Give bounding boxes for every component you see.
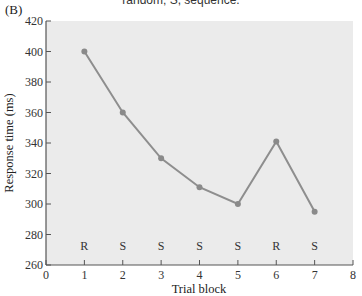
y-tick-label: 340 [25,136,43,150]
data-point [197,184,203,190]
condition-label: S [119,239,126,253]
x-tick-label: 5 [235,268,241,282]
y-tick-label: 360 [25,106,43,120]
data-point [158,155,164,161]
x-tick-label: 4 [197,268,203,282]
y-tick-label: 260 [25,258,43,272]
condition-label: S [235,239,242,253]
data-point [273,138,279,144]
data-point [312,209,318,215]
x-tick-label: 1 [81,268,87,282]
x-tick-label: 6 [273,268,279,282]
condition-label: S [196,239,203,253]
plot-area [46,21,353,265]
y-tick-label: 380 [25,75,43,89]
x-tick-label: 7 [312,268,318,282]
condition-label: R [80,239,88,253]
data-point [235,201,241,207]
x-tick-label: 8 [350,268,356,282]
condition-label: S [158,239,165,253]
x-tick-label: 0 [43,268,49,282]
x-tick-label: 3 [158,268,164,282]
x-axis-title: Trial block [172,282,227,296]
y-tick-label: 300 [25,197,43,211]
y-tick-label: 420 [25,14,43,28]
y-tick-label: 400 [25,45,43,59]
y-axis-title: Response time (ms) [2,93,16,192]
data-point [81,49,87,55]
y-tick-label: 280 [25,228,43,242]
line-chart: 260280300320340360380400420 012345678 RS… [0,0,362,296]
y-tick-label: 320 [25,167,43,181]
x-tick-label: 2 [120,268,126,282]
data-point [120,110,126,116]
condition-label: S [311,239,318,253]
condition-label: R [272,239,280,253]
